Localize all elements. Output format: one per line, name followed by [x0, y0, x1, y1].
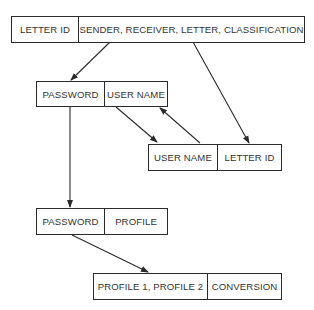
- password-field: PASSWORD: [37, 209, 104, 234]
- letter-id-field: LETTER ID: [217, 145, 281, 170]
- password-username-record: PASSWORD USER NAME: [36, 81, 168, 107]
- conversion-field: CONVERSION: [207, 274, 281, 299]
- letter-record: LETTER ID SENDER, RECEIVER, LETTER, CLAS…: [11, 16, 305, 43]
- username-field: USER NAME: [149, 145, 217, 170]
- arrow-letter-to-username-letterid: [193, 42, 249, 143]
- username-letterid-record: USER NAME LETTER ID: [148, 144, 282, 171]
- password-profile-record: PASSWORD PROFILE: [36, 208, 168, 235]
- arrow-password-username-to-username-letterid: [116, 107, 157, 142]
- arrow-password-profile-to-profile-conversion: [72, 235, 148, 272]
- arrow-username-letterid-to-password-username: [160, 108, 200, 143]
- password-field: PASSWORD: [37, 82, 104, 106]
- profiles-field: PROFILE 1, PROFILE 2: [94, 274, 207, 299]
- username-field: USER NAME: [104, 82, 167, 106]
- profile-field: PROFILE: [104, 209, 167, 234]
- letter-id-field: LETTER ID: [12, 17, 78, 42]
- profile-conversion-record: PROFILE 1, PROFILE 2 CONVERSION: [93, 273, 282, 300]
- arrow-letter-to-password-username: [71, 42, 110, 80]
- letter-details-field: SENDER, RECEIVER, LETTER, CLASSIFICATION: [78, 17, 304, 42]
